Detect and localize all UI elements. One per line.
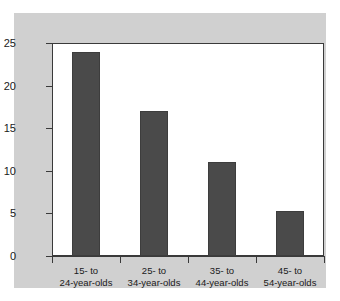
bar-3 <box>276 211 304 256</box>
x-category-label-0: 15- to 24-year-olds <box>52 265 120 288</box>
x-tick-mark-1 <box>120 257 121 263</box>
x-tick-mark-4 <box>324 257 325 263</box>
y-tick-label-4: 20 <box>0 81 16 92</box>
y-tick-label-5: 25 <box>0 38 16 49</box>
y-tick-mark-5 <box>46 43 52 44</box>
y-tick-mark-4 <box>46 86 52 87</box>
x-category-label-3: 45- to 54-year-olds <box>256 265 324 288</box>
x-category-label-2: 35- to 44-year-olds <box>188 265 256 288</box>
y-tick-label-3: 15 <box>0 123 16 134</box>
y-axis-line <box>52 43 53 257</box>
chart-panel: 0 5 10 15 20 25 15- to 24-year-olds 25- … <box>14 13 326 288</box>
x-category-label-1: 25- to 34-year-olds <box>120 265 188 288</box>
x-tick-mark-2 <box>188 257 189 263</box>
bar-chart-figure: 0 5 10 15 20 25 15- to 24-year-olds 25- … <box>0 0 340 301</box>
bar-2 <box>208 162 236 256</box>
bar-1 <box>140 111 168 256</box>
bar-0 <box>72 52 100 256</box>
y-tick-label-2: 10 <box>0 166 16 177</box>
y-tick-mark-2 <box>46 171 52 172</box>
y-tick-label-0: 0 <box>0 251 16 262</box>
x-tick-mark-0 <box>52 257 53 263</box>
y-tick-label-1: 5 <box>0 208 16 219</box>
y-tick-mark-1 <box>46 213 52 214</box>
x-tick-mark-3 <box>256 257 257 263</box>
y-tick-mark-3 <box>46 128 52 129</box>
